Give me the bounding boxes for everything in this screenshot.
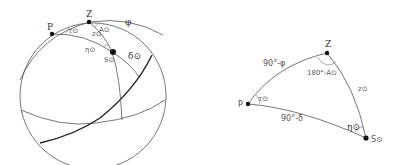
label-side-PS: 90°-δ bbox=[281, 114, 303, 123]
triangle-point-S bbox=[363, 135, 368, 140]
label-Z: Z bbox=[86, 9, 92, 19]
equator-arc bbox=[40, 55, 152, 143]
point-P bbox=[50, 32, 54, 36]
celestial-sphere: P Z φ τ⊙ A⊙ z⊙ η⊙ S⊙ δ⊙ bbox=[20, 9, 166, 165]
label-angle-S: η⊙ bbox=[347, 122, 360, 132]
triangle-label-P: P bbox=[238, 100, 243, 109]
triangle-label-S: S⊙ bbox=[371, 135, 383, 144]
label-phi: φ bbox=[125, 17, 131, 27]
label-delta: δ⊙ bbox=[128, 51, 141, 61]
label-P: P bbox=[47, 22, 53, 32]
label-z: z⊙ bbox=[92, 30, 102, 38]
horizon-arc bbox=[21, 100, 165, 124]
triangle-point-P bbox=[246, 102, 250, 106]
angle-arc-A bbox=[95, 24, 98, 27]
label-eta: η⊙ bbox=[85, 46, 95, 54]
label-side-PZ: 90°-φ bbox=[263, 59, 285, 68]
triangle-point-Z bbox=[325, 51, 329, 55]
point-Z bbox=[87, 20, 91, 24]
label-angle-P: τ⊙ bbox=[258, 95, 268, 103]
hour-circle-arc bbox=[52, 34, 140, 78]
diagram-canvas: P Z φ τ⊙ A⊙ z⊙ η⊙ S⊙ δ⊙ Z P S⊙ 90°-φ 180… bbox=[0, 0, 405, 165]
label-S: S⊙ bbox=[104, 56, 114, 64]
label-tau: τ⊙ bbox=[68, 27, 78, 35]
triangle-label-Z: Z bbox=[325, 39, 331, 49]
side-PS bbox=[248, 104, 366, 138]
label-side-ZS: z⊙ bbox=[358, 85, 368, 93]
label-angle-Z: 180°-A⊙ bbox=[307, 69, 337, 77]
astronomical-triangle: Z P S⊙ 90°-φ 180°-A⊙ z⊙ τ⊙ 90°-δ η⊙ bbox=[238, 39, 383, 144]
angle-arc-eta bbox=[104, 45, 109, 46]
point-S-sun bbox=[110, 49, 116, 55]
sphere-outline bbox=[20, 23, 166, 165]
